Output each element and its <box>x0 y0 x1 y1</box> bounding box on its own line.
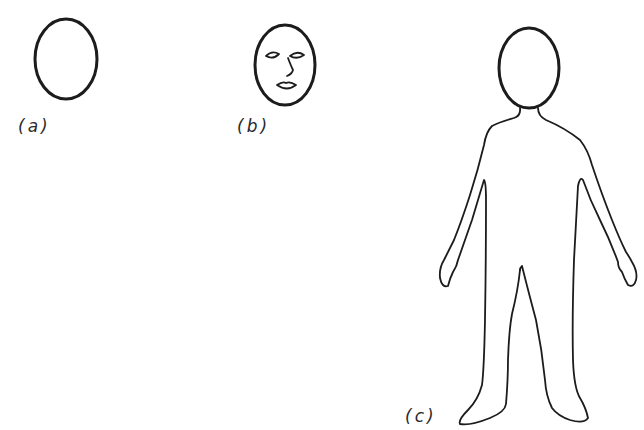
panel-a-oval <box>35 19 97 99</box>
body-outline-right <box>520 108 637 422</box>
panel-c-label: (c) <box>405 408 437 425</box>
nose-icon <box>287 58 293 76</box>
figure-canvas <box>0 0 644 430</box>
face-outline <box>255 25 315 105</box>
body-outline-left <box>440 108 520 424</box>
body-head-outline <box>499 28 559 108</box>
panel-b-label: (b) <box>237 118 270 135</box>
right-eye-icon <box>290 53 304 58</box>
panel-a-label: (a) <box>18 118 51 135</box>
mouth-icon <box>277 82 296 88</box>
left-eye-icon <box>266 52 279 57</box>
panel-b-face <box>255 25 315 105</box>
panel-c-body <box>440 28 637 424</box>
